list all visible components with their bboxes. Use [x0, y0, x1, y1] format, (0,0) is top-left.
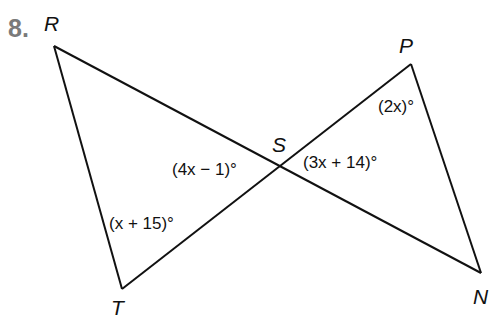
diagram: 8. R P S T N (2x)° (3x + 14)° (4x − 1)° … — [0, 0, 491, 324]
angle-label-S-left: (4x − 1)° — [172, 160, 237, 180]
segment-TP — [122, 64, 411, 289]
point-label-P: P — [399, 34, 413, 58]
point-label-S: S — [272, 133, 286, 157]
point-label-N: N — [473, 285, 488, 309]
bowtie-triangles — [0, 0, 491, 324]
segment-RT — [54, 46, 122, 289]
angle-label-S-right: (3x + 14)° — [303, 153, 377, 173]
angle-label-T: (x + 15)° — [109, 214, 174, 234]
point-label-R: R — [44, 12, 59, 36]
point-label-T: T — [111, 296, 124, 320]
angle-label-P: (2x)° — [378, 97, 414, 117]
problem-number: 8. — [8, 14, 29, 43]
